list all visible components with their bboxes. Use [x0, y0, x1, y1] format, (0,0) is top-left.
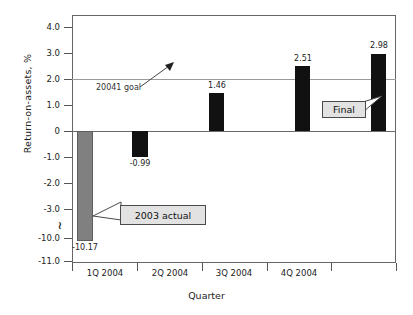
y-axis-title: Return-on-assets, % [22, 29, 33, 179]
y-tick-1.0 [64, 105, 72, 106]
y-tick-label--2.0: -2.0 [16, 179, 60, 188]
chart-canvas: [Quarterly results are annualized] 4.0 3… [0, 0, 413, 315]
bar-4q-2004[interactable] [371, 54, 386, 131]
y-tick--2.0 [64, 183, 72, 184]
x-axis-label-1q-2004: 1Q 2004 [70, 268, 140, 278]
x-axis-label-3q-2004: 3Q 2004 [199, 268, 269, 278]
x-axis-label-4q-2004: 4Q 2004 [264, 268, 334, 278]
goal-annotation-label: 20041 goal [96, 83, 141, 92]
bar-value-label-3q-2004: 2.51 [273, 54, 333, 63]
bar-value-label-2q-2004: 1.46 [187, 81, 247, 90]
y-tick--3.0 [64, 209, 72, 210]
y-tick--11.0 [64, 261, 72, 262]
goal-arrow-icon [138, 60, 178, 90]
y-tick-label--11.0: -11.0 [16, 257, 60, 266]
callout-2003-actual[interactable]: 2003 actual [120, 205, 206, 225]
zero-line [72, 131, 396, 132]
y-tick--1.0 [64, 157, 72, 158]
y-axis-break-symbol: ~ [53, 221, 66, 230]
callout-final[interactable]: Final [322, 101, 366, 118]
y-tick-2.0 [64, 79, 72, 80]
x-axis-label-2q-2004: 2Q 2004 [135, 268, 205, 278]
y-tick-label--10.0: -10.0 [16, 234, 60, 243]
y-tick-3.0 [64, 53, 72, 54]
bar-value-label-2003-actual: -10.17 [55, 243, 115, 252]
y-tick-label--3.0: -3.0 [16, 205, 60, 214]
bar-2q-2004[interactable] [209, 93, 224, 131]
x-tick-5 [396, 263, 397, 271]
bar-value-label-1q-2004: -0.99 [110, 159, 170, 168]
bar-3q-2004[interactable] [295, 66, 310, 131]
y-tick-0 [64, 131, 72, 132]
bar-value-label-4q-2004: 2.98 [349, 41, 409, 50]
bar-1q-2004[interactable] [132, 131, 148, 157]
gridline-2.0 [72, 79, 396, 80]
y-tick--10.0 [64, 238, 72, 239]
x-axis-title: Quarter [0, 290, 413, 301]
y-tick-4.0 [64, 27, 72, 28]
